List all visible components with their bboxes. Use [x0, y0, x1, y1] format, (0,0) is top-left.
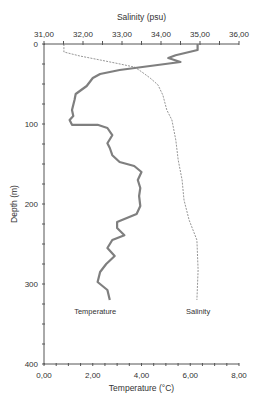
y-axis-tick-label: 400 — [25, 360, 39, 369]
top-axis-title: Salinity (psu) — [117, 12, 166, 22]
bottom-axis-tick-label: 0,00 — [36, 371, 52, 380]
bottom-axis-tick-label: 6,00 — [182, 371, 198, 380]
temperature-series-label: Temperature — [74, 307, 116, 316]
top-axis-tick-label: 35,00 — [190, 30, 211, 39]
y-axis-tick-label: 0 — [34, 40, 39, 49]
top-axis-tick-labels: 31,0032,0033,0034,0035,0036,00 — [34, 30, 250, 39]
temperature-line — [70, 44, 198, 300]
y-axis-tick-label: 300 — [25, 280, 39, 289]
bottom-axis-tick-labels: 0,002,004,006,008,00 — [36, 371, 247, 380]
top-axis-tick-label: 36,00 — [229, 30, 250, 39]
y-axis-title: Depth (m) — [9, 185, 19, 223]
bottom-axis-tick-label: 8,00 — [231, 371, 247, 380]
salinity-line — [64, 44, 198, 300]
bottom-axis-tick-label: 4,00 — [134, 371, 150, 380]
bottom-axis-title: Temperature (°C) — [109, 383, 174, 393]
top-axis-tick-label: 32,00 — [73, 30, 94, 39]
y-axis-tick-label: 200 — [25, 200, 39, 209]
salinity-series-label: Salinity — [186, 307, 210, 316]
top-axis-tick-label: 33,00 — [112, 30, 133, 39]
y-axis-tick-labels: 0100200300400 — [25, 40, 39, 369]
y-axis-tick-label: 100 — [25, 120, 39, 129]
top-axis-tick-label: 34,00 — [151, 30, 172, 39]
top-axis-tick-label: 31,00 — [34, 30, 55, 39]
bottom-axis-tick-label: 2,00 — [85, 371, 101, 380]
depth-profile-chart: Salinity (psu) 31,0032,0033,0034,0035,00… — [0, 0, 260, 408]
